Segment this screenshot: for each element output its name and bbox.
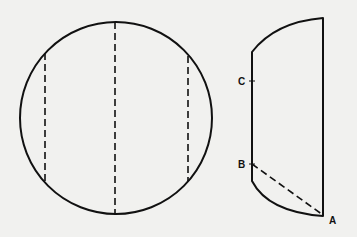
dashed-line-b-to-a <box>252 164 323 215</box>
circle-view <box>20 22 212 215</box>
label-b: B <box>238 159 245 170</box>
side-view-outline <box>252 18 323 216</box>
side-view: C B A <box>238 18 336 226</box>
label-a: A <box>329 215 336 226</box>
circle-outline <box>20 22 212 214</box>
geometry-diagram: C B A <box>0 0 357 237</box>
label-c: C <box>238 76 245 87</box>
